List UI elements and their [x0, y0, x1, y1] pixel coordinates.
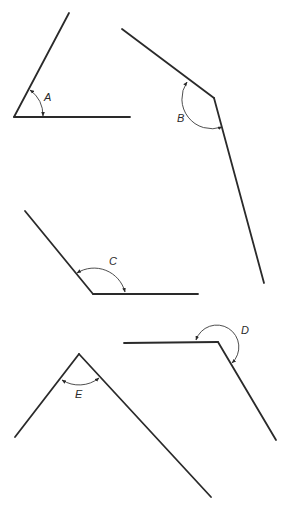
angle-c: C [25, 211, 198, 294]
angle-b-label: B [177, 112, 184, 124]
angle-d-ray-2 [218, 342, 276, 440]
angle-d-label: D [241, 324, 249, 336]
angle-a-arc-arrow-icon [30, 90, 43, 116]
angle-d-ray-1 [124, 342, 218, 343]
angle-e-arc-arrow-icon [62, 378, 99, 385]
angle-b-ray-1 [122, 29, 214, 98]
angle-a-label: A [43, 91, 51, 103]
angle-b: B [122, 29, 264, 283]
angle-b-ray-2 [214, 98, 264, 283]
angles-diagram: A B C D E [0, 0, 287, 511]
angle-c-ray-1 [25, 211, 93, 294]
angle-e-label: E [75, 388, 83, 400]
angle-e-ray-1 [15, 354, 79, 437]
angle-e-ray-2 [79, 354, 211, 497]
angle-a-ray-1 [14, 13, 69, 117]
angle-d-arc-arrow-icon [196, 325, 239, 363]
angle-d: D [124, 324, 276, 440]
angle-c-label: C [109, 255, 117, 267]
angle-e: E [15, 354, 211, 497]
angle-a: A [14, 13, 130, 117]
angle-c-arc-arrow-icon [77, 268, 125, 292]
